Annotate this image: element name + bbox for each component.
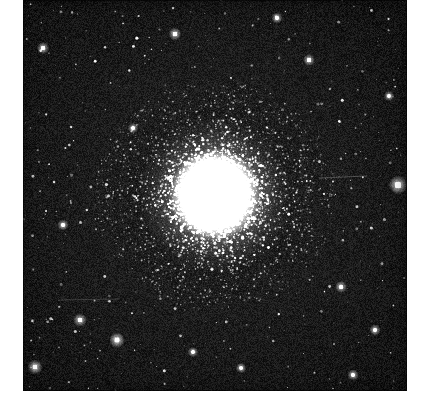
paper-margin-right — [407, 0, 432, 409]
paper-margin-left — [0, 0, 23, 409]
globular-cluster-image — [23, 0, 407, 391]
figure-caption — [23, 393, 407, 407]
photograph-page — [0, 0, 432, 409]
astronomical-plate — [23, 0, 407, 391]
